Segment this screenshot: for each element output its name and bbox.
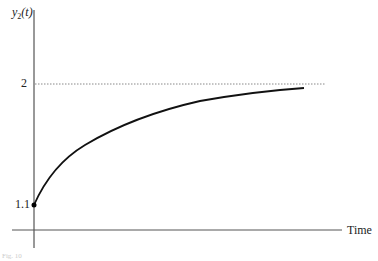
y-tick-1-1: 1.1 [15,197,30,212]
x-axis-label: Time [347,223,372,238]
curve-y2 [34,88,304,205]
start-point-marker [32,203,37,208]
y-axis-label: y2(t) [12,5,33,21]
y-tick-2: 2 [21,76,27,91]
footer-caption: Fig. 10 [2,252,22,260]
chart-canvas [0,0,378,261]
